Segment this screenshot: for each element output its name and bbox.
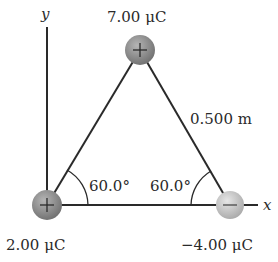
charge-top-label: 7.00 μC — [107, 8, 166, 26]
x-axis-label: x — [263, 196, 272, 214]
side-length-label: 0.500 m — [190, 110, 252, 128]
y-axis-label: y — [40, 5, 50, 23]
angle-arc-right — [191, 171, 211, 205]
charge-top — [125, 35, 155, 65]
charge-right — [216, 191, 244, 219]
angle-label-left: 60.0° — [89, 177, 130, 195]
charge-triangle-diagram: y x 60.0° 60.0° 0.500 m 7.00 μC 2.00 μC … — [0, 0, 278, 262]
angle-arc-left — [67, 170, 88, 205]
charge-left — [32, 190, 62, 220]
angle-label-right: 60.0° — [150, 177, 191, 195]
charge-left-label: 2.00 μC — [6, 236, 65, 254]
charge-right-label: −4.00 μC — [181, 236, 253, 254]
